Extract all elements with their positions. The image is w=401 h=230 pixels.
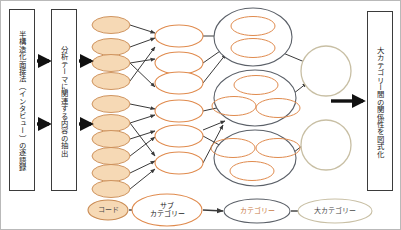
bigcategory-node-1[interactable] <box>301 46 351 96</box>
code-node-10[interactable] <box>92 181 130 198</box>
subcategory-node-6[interactable] <box>155 152 203 174</box>
link-code4-sub3 <box>130 47 155 81</box>
code-node-8[interactable] <box>92 148 130 165</box>
code-nodes <box>92 17 130 198</box>
legend-shapes <box>88 194 372 226</box>
link-code1-sub1 <box>130 25 155 33</box>
link-code5-sub4 <box>130 104 155 109</box>
code-node-3[interactable] <box>92 55 130 72</box>
code-node-1[interactable] <box>92 17 130 34</box>
subcategory-node-1[interactable] <box>155 25 203 47</box>
link-code3-sub3 <box>130 63 155 87</box>
extraction-box: 分析テーマに関連する内容の抽出 <box>51 9 77 191</box>
legend-bigcategory[interactable] <box>298 199 372 223</box>
legend-subcategory[interactable] <box>132 194 202 226</box>
link-code3-sub2 <box>130 59 155 63</box>
transcript-box: 半構造化面接法（インタビュー）の逐語録 <box>9 9 35 191</box>
code-node-4[interactable] <box>92 73 130 90</box>
bigcategory-node-2[interactable] <box>301 120 351 170</box>
category-groups <box>211 8 300 186</box>
link-code7-sub5 <box>130 131 155 139</box>
legend-category[interactable] <box>224 199 290 223</box>
transcript-box-label: 半構造化面接法（インタビュー）の逐語録 <box>18 30 26 171</box>
code-node-2[interactable] <box>92 39 130 56</box>
bigcategory-nodes <box>301 46 351 170</box>
link-code2-sub1 <box>130 38 155 47</box>
link-sub5-cat2 <box>203 121 225 130</box>
subcategory-node-5[interactable] <box>155 125 203 147</box>
code-node-9[interactable] <box>92 165 130 182</box>
extraction-box-label: 分析テーマに関連する内容の抽出 <box>60 45 68 156</box>
code-node-6[interactable] <box>92 115 130 132</box>
subcategory-node-2[interactable] <box>155 52 203 74</box>
subcategory-node-4[interactable] <box>155 100 203 122</box>
legend-code[interactable] <box>88 200 128 220</box>
code-node-5[interactable] <box>92 96 130 113</box>
code-to-subcategory-links <box>130 25 155 189</box>
subcategory-node-3[interactable] <box>155 72 203 94</box>
relation-diagram-box: 大カテゴリー間の関係性を図式化 <box>367 11 393 191</box>
code-node-7[interactable] <box>92 131 130 148</box>
diagram-canvas: 半構造化面接法（インタビュー）の逐語録 分析テーマに関連する内容の抽出 大カテゴ… <box>0 0 401 230</box>
relation-diagram-box-label: 大カテゴリー間の関係性を図式化 <box>376 46 384 157</box>
legend-arrow-2 <box>203 210 223 211</box>
link-code6-sub4 <box>130 115 155 123</box>
link-code10-sub6 <box>130 169 155 189</box>
link-sub3-cat1 <box>203 54 226 83</box>
subcategory-nodes <box>155 25 203 174</box>
link-code9-sub6 <box>130 161 155 173</box>
